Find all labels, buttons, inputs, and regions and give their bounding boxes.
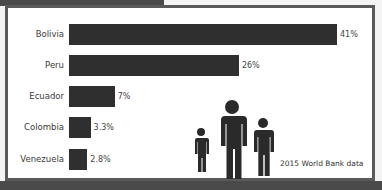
value-label: 2.8% (90, 149, 110, 170)
adult-figure-icon (221, 100, 247, 179)
bar-row: Peru26% (8, 55, 368, 76)
chart-panel: Bolivia41%Peru26%Ecuador7%Colombia3.3%Ve… (5, 5, 375, 181)
bar-row: Bolivia41% (8, 24, 368, 45)
bar (69, 149, 87, 170)
category-label: Colombia (9, 117, 64, 138)
category-label: Peru (9, 55, 64, 76)
bar (69, 24, 337, 45)
youth-figure-icon (254, 118, 274, 176)
child-figure-icon (195, 128, 209, 172)
bar (69, 117, 91, 138)
caption-strip (0, 181, 382, 190)
people-icon (188, 95, 278, 180)
value-label: 41% (340, 24, 358, 45)
category-label: Ecuador (9, 86, 64, 107)
category-label: Venezuela (9, 149, 64, 170)
source-note: 2015 World Bank data (280, 159, 363, 168)
value-label: 3.3% (94, 117, 114, 138)
bar (69, 86, 115, 107)
value-label: 7% (118, 86, 131, 107)
value-label: 26% (242, 55, 260, 76)
category-label: Bolivia (9, 24, 64, 45)
bar (69, 55, 239, 76)
